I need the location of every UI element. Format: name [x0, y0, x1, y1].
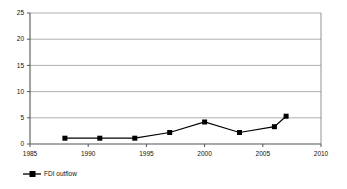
data-point-marker: [167, 130, 172, 135]
data-point-marker: [272, 124, 277, 129]
x-tick-label-2005: 2005: [249, 151, 277, 158]
data-point-marker: [62, 136, 67, 141]
y-tick-label-10: 10: [8, 89, 24, 96]
plot-area: [27, 13, 321, 147]
data-point-marker: [284, 114, 289, 119]
x-tick-label-1995: 1995: [132, 151, 160, 158]
data-point-marker: [202, 120, 207, 125]
legend-marker-fdi-outflow: [23, 171, 41, 177]
data-point-marker: [97, 136, 102, 141]
data-point-marker: [132, 136, 137, 141]
legend-label-fdi-outflow: FDI outflow: [44, 171, 77, 178]
y-tick-label-5: 5: [8, 115, 24, 122]
x-tick-label-2010: 2010: [307, 151, 335, 158]
y-tick-label-0: 0: [8, 141, 24, 148]
square-marker-icon: [30, 171, 36, 177]
y-tick-label-25: 25: [8, 10, 24, 17]
x-tick-label-1990: 1990: [74, 151, 102, 158]
x-tick-label-1985: 1985: [16, 151, 44, 158]
chart-container: 25 20 15 10 5 0 1985 1990 1995 2000 2005…: [0, 0, 347, 189]
data-point-marker: [237, 130, 242, 135]
chart-canvas: [0, 0, 347, 189]
y-tick-label-20: 20: [8, 36, 24, 43]
x-tick-label-2000: 2000: [191, 151, 219, 158]
y-tick-label-15: 15: [8, 63, 24, 70]
